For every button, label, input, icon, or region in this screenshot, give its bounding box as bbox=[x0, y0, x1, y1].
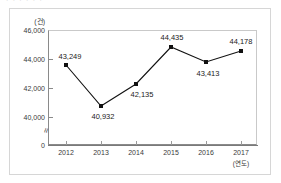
data-point-2016 bbox=[204, 60, 208, 64]
x-tick-label-2015: 2015 bbox=[151, 149, 191, 156]
x-tick-mark bbox=[241, 141, 242, 145]
x-tick-mark bbox=[136, 141, 137, 145]
y-tick-mark bbox=[49, 59, 53, 60]
x-tick-label-2012: 2012 bbox=[46, 149, 86, 156]
data-label-2012: 43,249 bbox=[59, 52, 82, 61]
y-tick-label-46000: 46,000 bbox=[24, 27, 45, 34]
y-tick-label-44000: 44,000 bbox=[24, 56, 45, 63]
y-tick-label-42000: 42,000 bbox=[24, 85, 45, 92]
x-tick-mark bbox=[171, 141, 172, 145]
x-tick-label-2017: 2017 bbox=[221, 149, 261, 156]
x-axis-unit-label: (연도) bbox=[221, 158, 261, 168]
data-point-2015 bbox=[169, 45, 173, 49]
x-tick-mark bbox=[206, 141, 207, 145]
plot-area bbox=[48, 30, 257, 145]
data-point-2013 bbox=[99, 104, 103, 108]
data-point-2017 bbox=[239, 49, 243, 53]
data-label-2014: 42,135 bbox=[131, 90, 154, 99]
data-point-2014 bbox=[134, 82, 138, 86]
x-axis-line bbox=[48, 145, 258, 146]
data-label-2017: 44,178 bbox=[230, 37, 253, 46]
y-tick-mark bbox=[49, 88, 53, 89]
x-tick-label-2013: 2013 bbox=[81, 149, 121, 156]
data-label-2013: 40,932 bbox=[92, 112, 115, 121]
y-tick-label-0: 0 bbox=[41, 142, 45, 149]
x-tick-mark bbox=[101, 141, 102, 145]
y-tick-mark bbox=[49, 117, 53, 118]
x-tick-mark bbox=[66, 141, 67, 145]
x-tick-label-2014: 2014 bbox=[116, 149, 156, 156]
data-label-2016: 43,413 bbox=[197, 69, 220, 78]
chart-figure: · · · · · · (건) 46,000 44,000 42,000 40,… bbox=[0, 0, 281, 183]
data-label-2015: 44,435 bbox=[161, 33, 184, 42]
y-axis-labels: 46,000 44,000 42,000 40,000 0 bbox=[0, 0, 45, 183]
x-tick-label-2016: 2016 bbox=[186, 149, 226, 156]
y-tick-label-40000: 40,000 bbox=[24, 114, 45, 121]
data-point-2012 bbox=[64, 63, 68, 67]
